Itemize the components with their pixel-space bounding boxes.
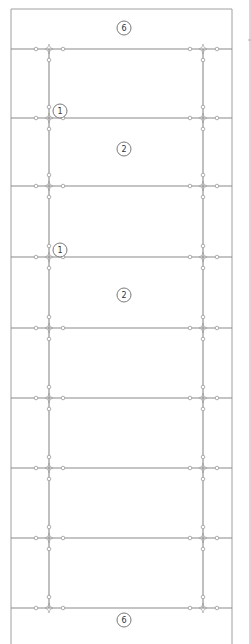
connection-node-icon (47, 58, 51, 62)
connection-node-icon (188, 184, 192, 188)
connection-node-icon (201, 244, 205, 248)
connection-node-icon (34, 536, 38, 540)
connection-node-icon (47, 127, 51, 131)
connection-node-icon (201, 455, 205, 459)
connection-node-icon (34, 606, 38, 610)
connection-node-icon (215, 466, 219, 470)
connection-node-icon (201, 477, 205, 481)
connection-node-icon (215, 116, 219, 120)
connection-node-icon (47, 455, 51, 459)
connection-node-icon (201, 127, 205, 131)
connection-node-icon (47, 195, 51, 199)
connection-node-icon (61, 536, 65, 540)
connection-node-icon (61, 184, 65, 188)
callout-1-second: 1 (53, 243, 68, 258)
connection-node-icon (61, 396, 65, 400)
connection-node-icon (47, 173, 51, 177)
connection-node-icon (34, 255, 38, 259)
connection-node-icon (188, 116, 192, 120)
framing-diagram (0, 0, 251, 644)
connection-node-icon (201, 337, 205, 341)
connection-node-icon (215, 396, 219, 400)
connection-node-icon (34, 116, 38, 120)
connection-node-icon (34, 466, 38, 470)
connection-node-icon (188, 466, 192, 470)
connection-node-icon (47, 385, 51, 389)
connection-node-icon (47, 244, 51, 248)
connection-node-icon (215, 255, 219, 259)
connection-node-icon (188, 326, 192, 330)
connection-node-icon (215, 184, 219, 188)
connection-node-icon (201, 58, 205, 62)
connection-node-icon (47, 105, 51, 109)
connection-node-icon (34, 184, 38, 188)
connection-node-icon (188, 47, 192, 51)
connection-node-icon (201, 525, 205, 529)
connection-node-icon (188, 255, 192, 259)
connection-node-icon (201, 173, 205, 177)
outer-frame (11, 9, 232, 644)
connection-node-icon (215, 47, 219, 51)
connection-node-icon (34, 326, 38, 330)
connection-node-icon (47, 477, 51, 481)
connection-node-icon (188, 396, 192, 400)
connection-node-icon (188, 536, 192, 540)
connection-node-icon (47, 337, 51, 341)
connection-node-icon (34, 396, 38, 400)
connection-node-icon (34, 47, 38, 51)
connection-node-icon (215, 606, 219, 610)
connection-node-icon (201, 547, 205, 551)
connection-node-icon (61, 326, 65, 330)
connection-node-icon (47, 407, 51, 411)
connection-node-icon (47, 525, 51, 529)
connection-node-icon (47, 547, 51, 551)
connection-node-icon (201, 105, 205, 109)
callout-6-top: 6 (117, 21, 132, 36)
connection-node-icon (61, 606, 65, 610)
connection-node-icon (201, 595, 205, 599)
connection-node-icon (61, 466, 65, 470)
connection-node-icon (215, 536, 219, 540)
callout-2-second: 2 (117, 288, 132, 303)
connection-node-icon (201, 407, 205, 411)
connection-node-icon (61, 47, 65, 51)
connection-node-icon (201, 385, 205, 389)
callout-2-first: 2 (117, 142, 132, 157)
connection-node-icon (215, 326, 219, 330)
connection-node-icon (201, 266, 205, 270)
connection-node-icon (47, 266, 51, 270)
connection-node-icon (201, 315, 205, 319)
connection-node-icon (47, 315, 51, 319)
callout-6-bottom: 6 (117, 613, 132, 628)
connection-node-icon (201, 195, 205, 199)
connection-node-icon (47, 595, 51, 599)
connection-node-icon (188, 606, 192, 610)
callout-1-first: 1 (53, 104, 68, 119)
